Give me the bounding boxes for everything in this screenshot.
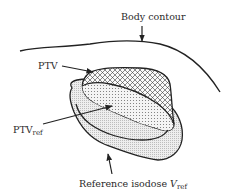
label-ptv: PTV (38, 61, 58, 71)
label-ptv-ref: PTVref (13, 125, 43, 137)
label-reference-isodose: Reference isodose Vref (79, 179, 187, 191)
diagram-canvas (0, 0, 233, 196)
ptv-arrow (62, 66, 93, 72)
reference-isodose-arrow (108, 154, 112, 174)
label-body-contour: Body contour (121, 12, 186, 22)
